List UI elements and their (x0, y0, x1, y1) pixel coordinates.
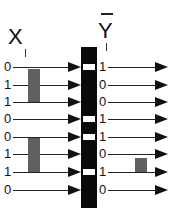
input-value: 0 (4, 112, 11, 125)
output-value: 1 (99, 112, 106, 125)
output-arrow-line (108, 119, 158, 120)
input-value: 1 (4, 95, 11, 108)
arrow-head-icon (68, 114, 81, 124)
input-highlight (28, 69, 40, 102)
arrow-head-icon (68, 132, 81, 142)
input-arrow-line (13, 85, 71, 86)
output-value: 1 (99, 165, 106, 178)
input-value: 1 (4, 78, 11, 91)
inverter-bar (81, 47, 97, 208)
output-value: 0 (99, 147, 106, 160)
input-arrow-line (13, 190, 71, 191)
input-value: 0 (4, 60, 11, 73)
output-arrow-line (108, 154, 158, 155)
output-arrow-line (108, 85, 158, 86)
input-arrow-line (13, 172, 71, 173)
input-value: 1 (4, 147, 11, 160)
arrow-head-icon (155, 167, 168, 177)
arrow-head-icon (155, 97, 168, 107)
input-arrow-line (13, 119, 71, 120)
arrow-head-icon (68, 97, 81, 107)
arrow-head-icon (68, 149, 81, 159)
output-value: 1 (99, 130, 106, 143)
output-label: Y (98, 20, 113, 42)
bar-slot (83, 116, 95, 122)
arrow-head-icon (68, 62, 81, 72)
output-arrow-line (108, 172, 158, 173)
input-arrow-line (13, 154, 71, 155)
output-arrow-line (108, 67, 158, 68)
input-value: 0 (4, 130, 11, 143)
arrow-head-icon (155, 114, 168, 124)
output-value: 0 (99, 78, 106, 91)
input-arrow-line (13, 137, 71, 138)
arrow-head-icon (155, 62, 168, 72)
input-arrow-line (13, 67, 71, 68)
arrow-head-icon (155, 132, 168, 142)
output-arrow-line (108, 190, 158, 191)
input-subscript-mark (25, 49, 26, 57)
arrow-head-icon (68, 167, 81, 177)
output-subscript-mark (106, 43, 107, 51)
input-arrow-line (13, 102, 71, 103)
arrow-head-icon (68, 185, 81, 195)
output-value: 1 (99, 60, 106, 73)
arrow-head-icon (155, 149, 168, 159)
output-value: 0 (99, 95, 106, 108)
input-value: 0 (4, 183, 11, 196)
input-value: 1 (4, 165, 11, 178)
overline (101, 13, 113, 15)
bar-slot (83, 64, 95, 70)
arrow-head-icon (155, 80, 168, 90)
output-arrow-line (108, 137, 158, 138)
bar-slot (83, 169, 95, 175)
arrow-head-icon (68, 80, 81, 90)
output-value: 0 (99, 183, 106, 196)
inverter-diagram: X Y 0110100101101100 (0, 0, 178, 219)
output-highlight (135, 158, 147, 172)
bar-slot (83, 134, 95, 140)
input-label: X (8, 26, 23, 48)
input-highlight (28, 138, 40, 172)
output-arrow-line (108, 102, 158, 103)
arrow-head-icon (155, 185, 168, 195)
